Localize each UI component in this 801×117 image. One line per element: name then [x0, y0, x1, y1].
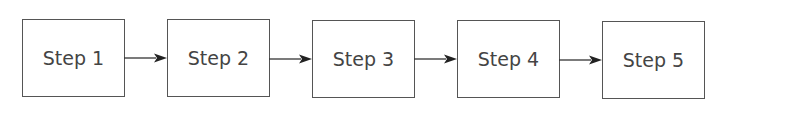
- step-4-label: Step 4: [478, 48, 539, 70]
- arrow-right-icon: [559, 54, 602, 66]
- step-1-box: Step 1: [22, 19, 125, 97]
- step-3-label: Step 3: [333, 48, 394, 70]
- arrow-right-icon: [414, 53, 457, 65]
- step-1-label: Step 1: [43, 47, 104, 69]
- step-3-box: Step 3: [312, 20, 415, 98]
- arrow-right-icon: [269, 53, 312, 65]
- step-2-label: Step 2: [188, 47, 249, 69]
- arrow-right-icon: [124, 52, 167, 64]
- step-5-box: Step 5: [602, 21, 705, 99]
- step-4-box: Step 4: [457, 20, 560, 98]
- step-2-box: Step 2: [167, 19, 270, 97]
- step-5-label: Step 5: [623, 49, 684, 71]
